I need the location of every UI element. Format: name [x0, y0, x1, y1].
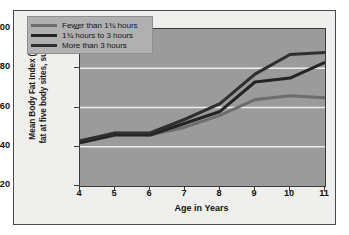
legend-swatch-icon	[31, 44, 57, 47]
y-axis-tick-label: 80	[0, 61, 10, 71]
x-axis-tick	[254, 186, 255, 191]
legend-swatch-icon	[31, 34, 57, 37]
series-lines	[80, 53, 325, 143]
chart-figure: Mean Body Fat Index (mm of fat at five b…	[13, 10, 336, 225]
legend-item: Fewer than 1¾ hours	[31, 20, 148, 30]
x-axis-tick	[219, 186, 220, 191]
chart-legend: Fewer than 1¾ hours 1¾ hours to 3 hours …	[27, 16, 153, 54]
series-line	[80, 62, 325, 142]
x-axis-tick	[114, 186, 115, 191]
legend-item: 1¾ hours to 3 hours	[31, 30, 148, 40]
legend-label: 1¾ hours to 3 hours	[62, 31, 133, 40]
x-axis-tick	[184, 186, 185, 191]
x-axis-tick	[149, 186, 150, 191]
y-axis-tick	[74, 28, 79, 29]
x-axis-tick	[289, 186, 290, 191]
y-axis-tick	[74, 146, 79, 147]
x-axis-tick	[79, 186, 80, 191]
y-axis-tick-label: 40	[0, 140, 10, 150]
y-axis-tick-label: 60	[0, 101, 10, 111]
legend-item: More than 3 hours	[31, 40, 148, 50]
legend-swatch-icon	[31, 24, 57, 27]
y-axis-tick-label: 20	[0, 179, 10, 189]
legend-label: More than 3 hours	[62, 41, 127, 50]
x-axis-title: Age in Years	[79, 203, 324, 213]
y-axis-tick-label: 100	[0, 22, 10, 32]
y-axis-tick	[74, 67, 79, 68]
x-axis-tick	[324, 186, 325, 191]
y-axis-tick	[74, 107, 79, 108]
